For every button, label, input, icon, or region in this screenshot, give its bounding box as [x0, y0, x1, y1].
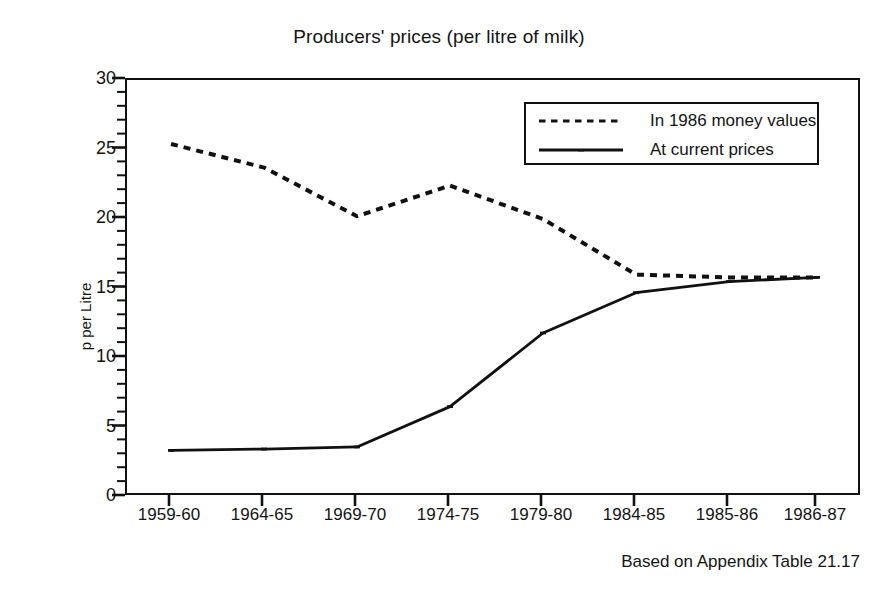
y-tick-label: 5 — [74, 415, 116, 436]
footer-note: Based on Appendix Table 21.17 — [621, 552, 860, 572]
chart-title: Producers' prices (per litre of milk) — [0, 26, 878, 48]
series-point-marker — [726, 280, 732, 283]
series-line — [171, 277, 817, 450]
y-tick-label: 20 — [74, 207, 116, 228]
series-point-marker — [814, 276, 820, 279]
series-point-marker — [633, 291, 639, 294]
series-point-marker — [447, 405, 453, 408]
series-point-marker — [261, 448, 267, 451]
chart-legend: In 1986 money values At current prices — [524, 102, 819, 165]
series-point-marker — [168, 449, 174, 452]
y-axis-tick-labels: 051015202530 — [68, 78, 116, 495]
y-tick-label: 30 — [74, 68, 116, 89]
y-tick-label: 0 — [74, 485, 116, 506]
y-axis-label-wrapper: p per Litre — [18, 78, 58, 495]
legend-entry-in-1986-money-values: In 1986 money values — [526, 105, 821, 136]
legend-swatch-dotted-icon — [538, 114, 624, 128]
y-tick-label: 10 — [74, 346, 116, 367]
legend-entry-at-current-prices: At current prices — [526, 134, 821, 165]
series-layer — [168, 144, 820, 452]
x-tick-label: 1986-87 — [755, 505, 875, 525]
x-axis-tick-labels: 1959-601964-651969-701974-751979-801984-… — [0, 505, 878, 531]
legend-swatch-solid-icon — [538, 143, 624, 157]
y-tick-label: 15 — [74, 276, 116, 297]
legend-label: In 1986 money values — [650, 111, 816, 131]
series-point-marker — [354, 446, 360, 449]
series-point-marker — [540, 332, 546, 335]
y-tick-label: 25 — [74, 137, 116, 158]
chart-figure: Producers' prices (per litre of milk) p … — [0, 0, 878, 595]
legend-label: At current prices — [650, 140, 774, 160]
